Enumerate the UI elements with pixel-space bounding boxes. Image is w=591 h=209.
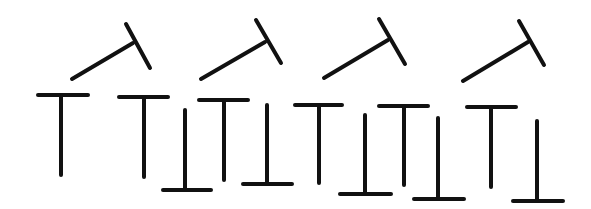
upright-t-shape — [467, 107, 516, 187]
upright-t-shape — [38, 95, 88, 175]
inverted-t-shape — [513, 121, 563, 201]
rotated-t-shape — [201, 20, 281, 79]
inverted-t-shape — [243, 105, 292, 184]
t-stem — [201, 42, 265, 79]
inverted-t-shape — [414, 118, 464, 199]
rotated-t-shape — [463, 21, 544, 81]
t-stem — [72, 43, 133, 79]
t-shapes-diagram — [0, 0, 591, 209]
rotated-t-shape — [324, 19, 405, 78]
upright-t-shape — [379, 106, 428, 185]
upright-t-shape — [295, 105, 342, 183]
inverted-t-shape — [163, 110, 211, 190]
rotated-t-row — [72, 19, 544, 81]
upright-t-shape — [199, 100, 248, 180]
t-stem — [324, 40, 388, 78]
rotated-t-shape — [72, 24, 150, 79]
inverted-t-shape — [340, 115, 391, 194]
t-bar — [256, 20, 281, 63]
shapes-root — [38, 19, 563, 201]
t-stem — [463, 42, 528, 81]
upright-and-inverted-t-row — [38, 95, 563, 201]
upright-t-shape — [119, 97, 168, 177]
